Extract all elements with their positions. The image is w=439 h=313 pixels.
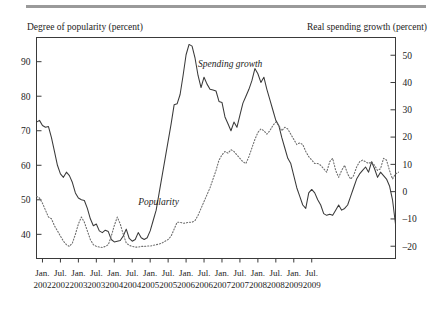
x-tick-year: 2009 [303, 280, 322, 290]
x-tick-month: Jan. [179, 268, 193, 278]
right-tick-label: 0 [403, 187, 408, 197]
left-axis-ticks: 405060708090 [21, 57, 42, 240]
series-label: Popularity [137, 197, 179, 207]
right-tick-label: –10 [402, 214, 418, 224]
right-tick-label: –20 [402, 242, 418, 252]
x-tick-year: 2002 [51, 280, 69, 290]
x-tick-month: Jul. [90, 268, 103, 278]
left-tick-label: 60 [21, 161, 31, 171]
x-tick-month: Jan. [215, 268, 229, 278]
x-tick-year: 2007 [213, 280, 232, 290]
x-tick-year: 2003 [69, 280, 88, 290]
x-tick-month: Jul. [198, 268, 211, 278]
x-tick-year: 2004 [105, 280, 124, 290]
x-tick-year: 2008 [249, 280, 268, 290]
right-tick-label: 50 [403, 51, 413, 61]
series-line-popularity [37, 122, 399, 247]
x-tick-month: Jan. [71, 268, 85, 278]
x-tick-year: 2005 [159, 280, 178, 290]
x-axis-ticks: Jan.2002Jul.2002Jan.2003Jul.2003Jan.2004… [33, 259, 321, 290]
x-tick-month: Jan. [143, 268, 157, 278]
left-tick-label: 70 [21, 126, 31, 136]
x-tick-month: Jan. [287, 268, 301, 278]
right-axis-ticks: –20–1001020304050 [391, 51, 418, 252]
left-tick-label: 80 [21, 92, 31, 102]
x-tick-month: Jul. [305, 268, 318, 278]
right-tick-label: 10 [403, 160, 413, 170]
right-tick-label: 30 [403, 105, 413, 115]
x-tick-year: 2007 [231, 280, 250, 290]
x-tick-month: Jan. [107, 268, 121, 278]
right-tick-label: 40 [403, 78, 413, 88]
figure-container: Degree of popularity (percent) Real spen… [0, 0, 439, 313]
x-tick-year: 2008 [267, 280, 286, 290]
x-tick-month: Jul. [54, 268, 67, 278]
series-line-spending-growth [37, 44, 396, 242]
x-tick-month: Jul. [126, 268, 139, 278]
left-tick-label: 50 [21, 195, 31, 205]
x-tick-year: 2006 [195, 280, 214, 290]
x-tick-month: Jan. [35, 268, 49, 278]
x-tick-month: Jul. [234, 268, 247, 278]
x-tick-year: 2005 [141, 280, 160, 290]
chart-plot: 405060708090 –20–1001020304050 Jan.2002J… [0, 0, 439, 313]
x-tick-year: 2002 [33, 280, 51, 290]
series-label: Spending growth [198, 59, 263, 69]
x-tick-year: 2003 [87, 280, 106, 290]
right-tick-label: 20 [403, 132, 413, 142]
x-tick-year: 2004 [123, 280, 142, 290]
x-tick-year: 2006 [177, 280, 196, 290]
left-tick-label: 40 [21, 230, 31, 240]
x-tick-month: Jul. [162, 268, 175, 278]
series-lines [37, 44, 399, 247]
x-tick-month: Jan. [251, 268, 265, 278]
x-tick-month: Jul. [269, 268, 282, 278]
x-tick-year: 2009 [285, 280, 304, 290]
plot-frame [37, 38, 396, 259]
left-tick-label: 90 [21, 57, 31, 67]
